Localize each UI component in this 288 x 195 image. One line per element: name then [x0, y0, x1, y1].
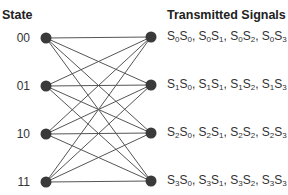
state-label-00: 00 — [0, 31, 30, 45]
state-label-01: 01 — [0, 79, 30, 93]
state-node-left-1 — [41, 81, 52, 92]
state-heading: State — [2, 8, 33, 22]
signals-state-2: S2S0, S2S1, S2S2, S2S3 — [167, 125, 287, 140]
state-label-10: 10 — [0, 127, 30, 141]
transmitted-signals-heading: Transmitted Signals — [167, 8, 286, 22]
state-node-right-3 — [146, 176, 157, 187]
state-node-left-3 — [41, 177, 52, 188]
state-node-right-0 — [146, 32, 157, 43]
state-node-right-1 — [146, 80, 157, 91]
transition-edge-0-0 — [46, 37, 151, 38]
state-node-left-0 — [41, 33, 52, 44]
signals-state-1: S1S0, S1S1, S1S2, S1S3 — [167, 77, 287, 92]
signals-state-3: S3S0, S3S1, S3S2, S3S3 — [167, 173, 287, 188]
state-label-11: 11 — [0, 175, 30, 189]
transition-edge-3-2 — [46, 133, 151, 182]
transition-edge-1-0 — [46, 37, 151, 86]
trellis-diagram: State Transmitted Signals 00 01 10 11 S0… — [0, 0, 288, 195]
transition-edge-3-3 — [46, 181, 151, 182]
state-node-left-2 — [41, 129, 52, 140]
state-node-right-2 — [146, 128, 157, 139]
signals-state-0: S0S0, S0S1, S0S2, S0S3 — [167, 29, 287, 44]
